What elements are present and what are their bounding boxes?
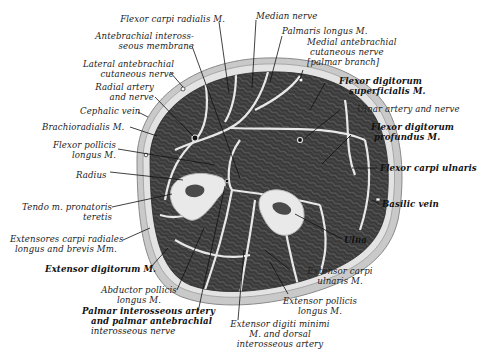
- label-line: Extensor digiti minimi: [226, 319, 334, 329]
- label-basilic-vein: Basilic vein: [382, 199, 439, 209]
- label-flexor-digitorum-superficialis: Flexor digitorum superficialis M.: [339, 76, 426, 96]
- label-line: cutaneous nerve: [72, 69, 174, 79]
- label-flexor-digitorum-profundus: Flexor digitorum profundus M.: [371, 122, 454, 142]
- label-extensor-pollicis-longus: Extensor pollicis longus M.: [275, 296, 365, 316]
- label-line: superficialis M.: [339, 86, 426, 96]
- cross-section-illustration: [0, 0, 480, 356]
- label-line: longus M.: [96, 295, 182, 305]
- label-line: Extensor pollicis: [275, 296, 365, 306]
- label-line: profundus M.: [371, 132, 454, 142]
- label-line: longus M.: [48, 150, 116, 160]
- label-extensor-digitorum: Extensor digitorum M.: [45, 264, 156, 274]
- label-line: Extensores carpi radiales: [10, 234, 124, 244]
- label-median-nerve: Median nerve: [256, 11, 317, 21]
- label-cephalic-vein: Cephalic vein: [80, 106, 140, 116]
- basilic-vein-mark: [376, 198, 380, 201]
- label-line: interosseous artery: [226, 339, 334, 349]
- label-extensor-digiti-minimi: Extensor digiti minimi M. and dorsal int…: [226, 319, 334, 349]
- label-line: seous membrane: [90, 41, 194, 51]
- label-extensor-carpi-ulnaris: Extensor carpi ulnaris M.: [300, 266, 380, 286]
- label-line: Lateral antebrachial: [72, 59, 174, 69]
- label-medial-antebrachial-cutaneous-nerve: Medial antebrachial cutaneous nerve [pal…: [307, 37, 397, 67]
- medial-cutaneous-nerve-dot: [299, 78, 303, 82]
- label-line: Radial artery: [82, 82, 154, 92]
- label-line: M. and dorsal: [226, 329, 334, 339]
- label-line: Antebrachial inteross-: [90, 31, 194, 41]
- label-flexor-pollicis-longus: Flexor pollicis longus M.: [48, 140, 116, 160]
- label-line: cutaneous nerve: [307, 47, 397, 57]
- label-abductor-pollicis-longus: Abductor pollicis longus M.: [96, 285, 182, 305]
- label-radial-artery-and-nerve: Radial artery and nerve: [82, 82, 154, 102]
- label-line: longus and brevis Mm.: [10, 244, 124, 254]
- label-line: Tendo m. pronatoris: [10, 202, 112, 212]
- forearm-cross-section-figure: Flexor carpi radialis M. Median nerve Pa…: [0, 0, 480, 356]
- label-line: ulnaris M.: [300, 276, 380, 286]
- label-line: interosseous nerve: [82, 326, 215, 336]
- label-line: Flexor digitorum: [371, 122, 454, 132]
- label-palmar-interosseous-artery: Palmar interosseous artery and palmar an…: [82, 306, 215, 336]
- label-ulna: Ulna: [344, 235, 367, 245]
- label-line: Flexor digitorum: [339, 76, 426, 86]
- label-line: Flexor pollicis: [48, 140, 116, 150]
- label-line: Palmar interosseous artery: [82, 306, 215, 316]
- label-line: and nerve: [82, 92, 154, 102]
- label-tendo-pronatoris-teretis: Tendo m. pronatoris teretis: [10, 202, 112, 222]
- label-line: and palmar antebrachial: [82, 316, 215, 326]
- label-line: Medial antebrachial: [307, 37, 397, 47]
- label-flexor-carpi-radialis: Flexor carpi radialis M.: [115, 14, 225, 24]
- label-line: Extensor carpi: [300, 266, 380, 276]
- label-flexor-carpi-ulnaris: Flexor carpi ulnaris: [380, 163, 477, 173]
- palmar-interosseous-dot: [225, 179, 229, 183]
- label-line: longus M.: [275, 306, 365, 316]
- label-antebrachial-interosseous-membrane: Antebrachial inteross- seous membrane: [90, 31, 194, 51]
- label-line: Abductor pollicis: [96, 285, 182, 295]
- lateral-cutaneous-nerve-dot: [181, 87, 185, 91]
- label-palmaris-longus: Palmaris longus M.: [282, 26, 368, 36]
- label-line: [palmar branch]: [307, 57, 397, 67]
- label-extensores-carpi-radiales: Extensores carpi radiales longus and bre…: [10, 234, 124, 254]
- label-lateral-antebrachial-cutaneous-nerve: Lateral antebrachial cutaneous nerve: [72, 59, 174, 79]
- label-radius: Radius: [76, 170, 107, 180]
- label-brachioradialis: Brachioradialis M.: [42, 122, 124, 132]
- label-line: teretis: [10, 212, 112, 222]
- label-ulnar-artery-and-nerve: Ulnar artery and nerve: [357, 104, 460, 114]
- ulnar-artery-dot: [298, 138, 303, 143]
